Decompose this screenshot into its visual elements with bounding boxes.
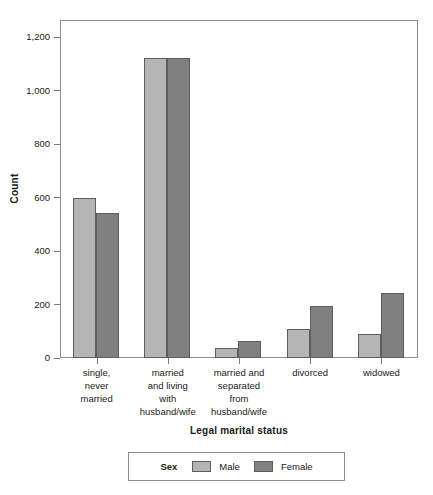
bar-female xyxy=(238,341,261,358)
x-axis-category-label-line: separated xyxy=(197,379,281,392)
y-axis-tick-label: 1,000 xyxy=(26,85,50,97)
bar-male xyxy=(144,58,167,358)
y-axis-tick: 200 xyxy=(0,299,60,311)
y-axis-tick-label: 600 xyxy=(34,192,50,204)
legend-title: Sex xyxy=(160,461,177,472)
y-axis-tick-label: 0 xyxy=(45,352,50,364)
x-axis-tick-mark xyxy=(239,358,240,364)
legend-label: Female xyxy=(281,461,313,472)
bar-male xyxy=(73,198,96,358)
bar-chart: Count 02004006008001,0001,200 single,nev… xyxy=(0,0,433,495)
legend-label: Male xyxy=(219,461,240,472)
bar-female xyxy=(310,306,333,358)
y-axis-tick: 0 xyxy=(0,352,60,364)
bar-male xyxy=(287,329,310,358)
y-axis-tick-label: 1,200 xyxy=(26,31,50,43)
bar-group xyxy=(132,21,203,358)
y-axis-tick: 800 xyxy=(0,138,60,150)
bar-group xyxy=(203,21,274,358)
x-axis-title: Legal marital status xyxy=(60,425,418,436)
x-axis-category-label-line: from xyxy=(197,392,281,405)
legend-item-female[interactable]: Female xyxy=(254,461,313,472)
bar-male xyxy=(358,334,381,358)
bar-female xyxy=(167,58,190,358)
x-axis-category-label-line: husband/wife xyxy=(197,405,281,418)
x-axis-tick-mark xyxy=(168,358,169,364)
y-axis-tick: 600 xyxy=(0,192,60,204)
y-axis-tick: 1,200 xyxy=(0,31,60,43)
y-axis-tick-label: 800 xyxy=(34,138,50,150)
bar-female xyxy=(381,293,404,358)
x-axis-tick-mark xyxy=(310,358,311,364)
bar-group xyxy=(346,21,417,358)
legend-swatch-male xyxy=(192,461,211,472)
legend-item-male[interactable]: Male xyxy=(192,461,240,472)
bar-male xyxy=(215,348,238,358)
y-axis-tick: 400 xyxy=(0,245,60,257)
y-axis-tick-label: 200 xyxy=(34,299,50,311)
bar-female xyxy=(96,213,119,358)
bar-group xyxy=(61,21,132,358)
x-axis-tick-mark xyxy=(97,358,98,364)
legend-items: MaleFemale xyxy=(192,461,312,472)
y-axis-tick-label: 400 xyxy=(34,245,50,257)
legend-swatch-female xyxy=(254,461,273,472)
y-axis-title: Count xyxy=(9,159,20,219)
x-axis-category-label-line: widowed xyxy=(339,366,423,379)
x-axis-tick-mark xyxy=(381,358,382,364)
x-axis-category-label: widowed xyxy=(339,366,423,379)
y-axis-tick: 1,000 xyxy=(0,85,60,97)
bars-layer xyxy=(61,21,417,358)
legend: Sex MaleFemale xyxy=(128,452,345,481)
bar-group xyxy=(275,21,346,358)
